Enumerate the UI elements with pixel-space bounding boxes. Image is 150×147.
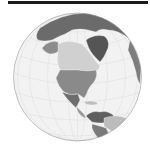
globe-map[interactable]: Russia / Arctic Europe / Africa edge Gre… — [0, 0, 150, 147]
